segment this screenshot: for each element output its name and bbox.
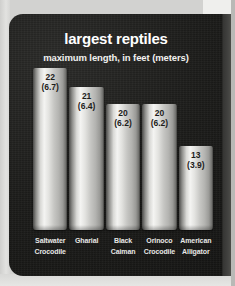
bar-column: 21 (6.4) [69, 68, 103, 230]
category-label: American Alligator [179, 232, 213, 272]
chart-title: largest reptiles [9, 30, 223, 47]
category-label: Orinoco Crocodile [142, 232, 176, 272]
bar-value-feet: 20 [155, 108, 164, 118]
bar-column: 13 (3.9) [179, 68, 213, 230]
category-axis: Saltwater Crocodile Gharial Black Caiman… [33, 232, 213, 272]
bar-value-label: 22 (6.7) [33, 72, 67, 92]
bar-group: 22 (6.7) 21 (6.4) [33, 68, 213, 230]
bar-value-meters: (6.2) [106, 118, 140, 128]
category-label-line2: Alligator [179, 247, 213, 258]
bar-value-meters: (6.7) [33, 82, 67, 92]
bar-value-meters: (6.4) [69, 101, 103, 111]
bar-column: 20 (6.2) [106, 68, 140, 230]
bar-value-label: 20 (6.2) [142, 108, 176, 128]
category-label-line1: American [179, 236, 213, 247]
bar-value-label: 13 (3.9) [179, 150, 213, 170]
category-label: Saltwater Crocodile [33, 232, 67, 272]
chart-subtitle: maximum length, in feet (meters) [9, 52, 223, 63]
bar-value-feet: 21 [82, 91, 91, 101]
bar: 13 (3.9) [179, 146, 213, 230]
page-margin-right [231, 0, 235, 286]
category-label: Gharial [69, 232, 103, 272]
category-label: Black Caiman [106, 232, 140, 272]
bar-column: 22 (6.7) [33, 68, 67, 230]
bar-value-meters: (6.2) [142, 118, 176, 128]
bar: 21 (6.4) [69, 87, 103, 230]
bar-value-label: 20 (6.2) [106, 108, 140, 128]
bar-value-label: 21 (6.4) [69, 91, 103, 111]
category-label-line1: Black [106, 236, 140, 247]
bar-value-meters: (3.9) [179, 160, 213, 170]
category-label-line2: Crocodile [142, 247, 176, 258]
category-label-line1: Orinoco [142, 236, 176, 247]
bar-value-feet: 20 [118, 108, 127, 118]
chart-panel: largest reptiles maximum length, in feet… [9, 14, 223, 276]
category-label-line1: Saltwater [33, 236, 67, 247]
bar: 20 (6.2) [142, 104, 176, 230]
bar: 20 (6.2) [106, 104, 140, 230]
plot-area: 22 (6.7) 21 (6.4) [33, 68, 213, 276]
bar: 22 (6.7) [33, 68, 67, 230]
category-label-line1: Gharial [69, 236, 103, 247]
bar-value-feet: 22 [45, 72, 54, 82]
chart-screenshot: largest reptiles maximum length, in feet… [0, 0, 235, 286]
bar-value-feet: 13 [191, 150, 200, 160]
category-label-line2: Crocodile [33, 247, 67, 258]
category-label-line2: Caiman [106, 247, 140, 258]
bar-column: 20 (6.2) [142, 68, 176, 230]
